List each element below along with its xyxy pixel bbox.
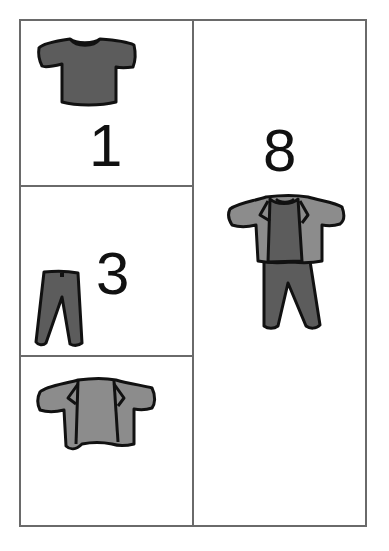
tshirt-icon <box>36 36 138 108</box>
row-divider-2 <box>19 355 194 357</box>
outfit-icon <box>226 193 346 333</box>
count-tshirt: 1 <box>89 116 122 176</box>
pants-icon <box>34 269 86 349</box>
count-outfit: 8 <box>263 121 296 181</box>
count-pants: 3 <box>96 244 129 304</box>
row-divider-1 <box>19 185 194 187</box>
jacket-icon <box>36 376 158 454</box>
column-divider <box>192 19 194 527</box>
